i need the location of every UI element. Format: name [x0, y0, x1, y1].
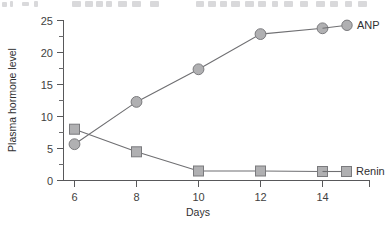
series-markers-anp [69, 23, 328, 150]
data-point-renin-day8 [132, 147, 142, 157]
data-point-anp-day8 [131, 97, 142, 108]
series-line-anp [75, 28, 323, 144]
x-axis-ticks [75, 181, 370, 188]
series-line-renin [75, 129, 323, 171]
chart-figure: 25 20 15 10 5 0 6 8 10 12 14 Days Plasma… [0, 0, 386, 227]
y-tick-label-0: 0 [47, 175, 53, 187]
data-point-anp-day10 [193, 64, 204, 75]
y-tick-label-5: 5 [47, 143, 53, 155]
y-tick-label-15: 15 [41, 79, 53, 91]
series-marker-anp-legend [342, 20, 352, 30]
x-tick-label-10: 10 [192, 191, 204, 203]
data-point-anp-day6 [69, 139, 80, 150]
data-point-renin-day10 [194, 166, 204, 176]
x-tick-label-8: 8 [133, 191, 139, 203]
x-tick-label-6: 6 [71, 191, 77, 203]
x-tick-label-14: 14 [316, 191, 328, 203]
y-tick-label-20: 20 [41, 47, 53, 59]
line-chart: 25 20 15 10 5 0 6 8 10 12 14 Days Plasma… [0, 0, 386, 227]
data-point-renin-day6 [70, 124, 80, 134]
x-axis-title: Days [186, 206, 210, 218]
data-point-renin-day12 [256, 166, 266, 176]
x-tick-label-12: 12 [254, 191, 266, 203]
data-point-anp-day12 [255, 29, 266, 40]
y-axis-title: Plasma hormone level [6, 48, 18, 152]
series-label-renin: Renin [356, 165, 385, 177]
series-label-anp: ANP [357, 19, 380, 31]
y-tick-label-10: 10 [41, 111, 53, 123]
series-markers-renin [70, 124, 328, 176]
series-marker-renin-legend [342, 167, 352, 177]
y-tick-label-25: 25 [41, 15, 53, 27]
y-axis-minor-ticks [59, 37, 64, 165]
